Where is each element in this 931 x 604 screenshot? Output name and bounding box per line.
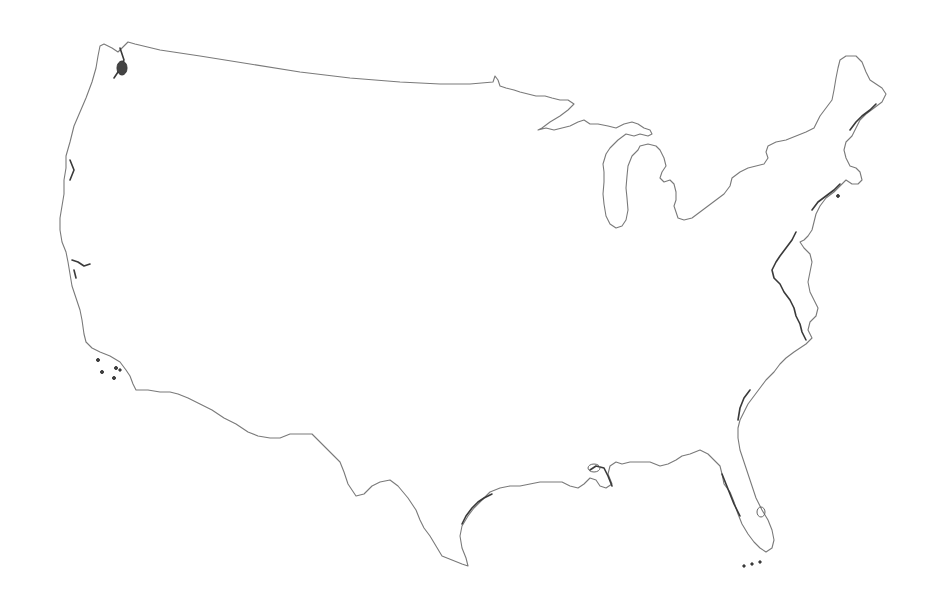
island <box>119 369 121 371</box>
dense-coastlines <box>70 48 876 524</box>
islands <box>97 61 840 567</box>
us-border-outline <box>60 42 886 566</box>
island <box>837 195 840 198</box>
us-map <box>0 0 931 604</box>
coastline-detail <box>812 184 840 210</box>
island <box>743 565 745 567</box>
lakes <box>588 464 765 517</box>
island <box>117 61 127 75</box>
island <box>97 359 100 362</box>
island <box>759 561 761 563</box>
island <box>113 377 116 380</box>
coastline-detail <box>722 474 740 516</box>
coastline-detail <box>772 232 806 340</box>
island <box>101 371 104 374</box>
island <box>751 563 753 565</box>
island <box>115 367 118 370</box>
coastline-detail <box>738 390 750 420</box>
coastline-detail <box>72 260 90 278</box>
coastline-detail <box>70 48 124 180</box>
